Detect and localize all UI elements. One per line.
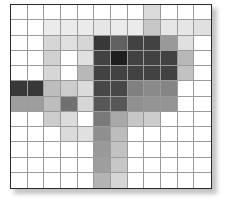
heatmap-cell [128,142,145,157]
heatmap-cell [128,36,145,51]
heatmap-cell [11,112,28,127]
heatmap-cell [28,173,45,188]
heatmap-cell [111,112,128,127]
heatmap-cell [44,20,61,35]
heatmap-cell [194,97,211,112]
heatmap-cell [128,173,145,188]
heatmap-cell [11,20,28,35]
heatmap-cell [44,5,61,20]
heatmap-cell [11,5,28,20]
heatmap-cell [94,51,111,66]
heatmap-cell [78,66,95,81]
heatmap-cell [11,81,28,96]
heatmap-cell [161,51,178,66]
plot-frame [10,4,212,189]
heatmap-cell [44,81,61,96]
heatmap-cell [161,36,178,51]
heatmap-cell [178,81,195,96]
heatmap-cell [111,158,128,173]
heatmap-cell [78,112,95,127]
heatmap-cell [178,36,195,51]
heatmap-cell [161,97,178,112]
heatmap-cell [111,20,128,35]
heatmap-cell [194,127,211,142]
heatmap-cell [94,66,111,81]
heatmap-cell [178,173,195,188]
heatmap-cell [61,66,78,81]
heatmap-cell [61,51,78,66]
heatmap-cell [44,66,61,81]
heatmap-cell [194,158,211,173]
heatmap-cell [94,127,111,142]
heatmap-cell [61,173,78,188]
heatmap-cell [11,173,28,188]
heatmap-cell [61,112,78,127]
heatmap-cell [128,97,145,112]
heatmap-cell [144,81,161,96]
heatmap-cell [194,36,211,51]
heatmap-cell [44,173,61,188]
heatmap-cell [78,5,95,20]
heatmap-cell [144,97,161,112]
heatmap-cell [44,112,61,127]
heatmap-cell [111,81,128,96]
heatmap-cell [28,36,45,51]
heatmap-cell [28,81,45,96]
heatmap-cell [11,66,28,81]
heatmap-cell [111,5,128,20]
heatmap-cell [78,20,95,35]
heatmap-cell [11,36,28,51]
heatmap-cell [111,97,128,112]
heatmap-cell [111,127,128,142]
heatmap-cell [194,173,211,188]
heatmap-cell [61,97,78,112]
heatmap-cell [44,51,61,66]
heatmap-cell [11,51,28,66]
heatmap-cell [28,112,45,127]
heatmap-cell [78,51,95,66]
heatmap-cell [94,112,111,127]
heatmap-cell [111,142,128,157]
heatmap-cell [161,127,178,142]
heatmap-cell [78,173,95,188]
heatmap-cell [194,112,211,127]
heatmap-cell [11,97,28,112]
heatmap-cell [111,51,128,66]
heatmap-cell [178,142,195,157]
heatmap-cell [194,5,211,20]
heatmap-cell [178,5,195,20]
heatmap-cell [144,5,161,20]
heatmap-cell [28,5,45,20]
heatmap-cell [94,81,111,96]
heatmap-cell [61,36,78,51]
heatmap-cell [28,158,45,173]
heatmap-cell [78,158,95,173]
heatmap-cell [94,158,111,173]
heatmap-cell [128,5,145,20]
heatmap-cell [111,66,128,81]
heatmap-cell [128,51,145,66]
heatmap-cell [194,51,211,66]
heatmap-cell [28,51,45,66]
heatmap-cell [94,20,111,35]
heatmap-cell [144,158,161,173]
heatmap-cell [78,142,95,157]
heatmap-cell [161,66,178,81]
heatmap-cell [144,173,161,188]
heatmap-cell [144,36,161,51]
heatmap-cell [61,81,78,96]
heatmap-cell [194,20,211,35]
heatmap-cell [128,127,145,142]
heatmap-cell [61,158,78,173]
heatmap-cell [78,127,95,142]
heatmap-cell [194,142,211,157]
heatmap-cell [44,36,61,51]
heatmap-cell [61,127,78,142]
heatmap-cell [128,112,145,127]
heatmap-cell [94,36,111,51]
heatmap-cell [161,81,178,96]
heatmap-cell [94,5,111,20]
heatmap-cell [178,97,195,112]
heatmap-cell [161,142,178,157]
heatmap-cell [28,142,45,157]
